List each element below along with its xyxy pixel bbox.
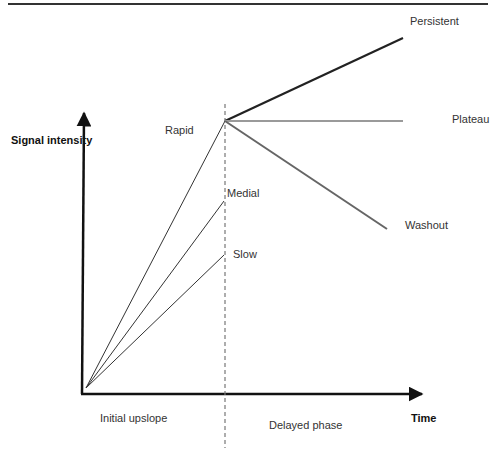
initial-upslope-label: Initial upslope: [100, 412, 167, 424]
persistent-label: Persistent: [410, 15, 459, 27]
washout-line: [225, 121, 387, 229]
medial-label: Medial: [227, 187, 259, 199]
rapid-label: Rapid: [165, 124, 194, 136]
x-axis-label: Time: [411, 412, 436, 424]
kinetic-curve-chart: [0, 0, 497, 465]
medial-line: [86, 201, 224, 388]
y-axis-label: Signal intensity: [11, 134, 92, 146]
plateau-label: Plateau: [452, 113, 489, 125]
persistent-line: [225, 38, 403, 121]
washout-label: Washout: [405, 219, 448, 231]
slow-label: Slow: [233, 248, 257, 260]
slow-line: [86, 255, 224, 388]
rapid-line: [86, 121, 225, 388]
delayed-phase-label: Delayed phase: [269, 419, 342, 431]
y-axis: [82, 113, 84, 394]
